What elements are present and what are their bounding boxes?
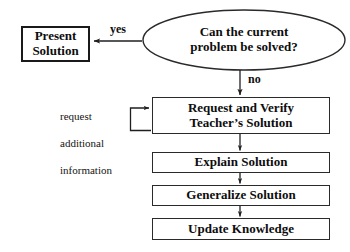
edge-label-no: no: [248, 72, 261, 87]
edge-label-yes: yes: [110, 22, 126, 37]
update-knowledge-label: Update Knowledge: [188, 222, 294, 237]
decision-can-problem-be-solved[interactable]: Can the current problem be solved?: [150, 12, 338, 68]
generalize-solution-label: Generalize Solution: [186, 188, 295, 203]
request-verify-line-1: Request and Verify: [188, 101, 294, 116]
present-solution-line-1: Present: [35, 29, 77, 44]
present-solution-line-2: Solution: [32, 44, 78, 59]
note-line-2: additional: [60, 137, 130, 150]
request-verify-line-2: Teacher’s Solution: [190, 116, 293, 131]
flowchart-canvas: Can the current problem be solved? Prese…: [0, 0, 350, 252]
decision-line-2: problem be solved?: [190, 40, 297, 55]
note-request-additional-information: request additional information: [60, 97, 130, 191]
note-line-3: information: [60, 164, 130, 177]
edge-feedback-loop: [131, 108, 152, 131]
node-present-solution[interactable]: Present Solution: [21, 26, 90, 62]
node-request-and-verify[interactable]: Request and Verify Teacher’s Solution: [152, 97, 330, 134]
node-update-knowledge[interactable]: Update Knowledge: [152, 218, 330, 240]
node-generalize-solution[interactable]: Generalize Solution: [152, 185, 330, 206]
note-line-1: request: [60, 110, 130, 123]
decision-line-1: Can the current: [200, 25, 289, 40]
node-explain-solution[interactable]: Explain Solution: [152, 152, 330, 173]
explain-solution-label: Explain Solution: [195, 155, 288, 170]
